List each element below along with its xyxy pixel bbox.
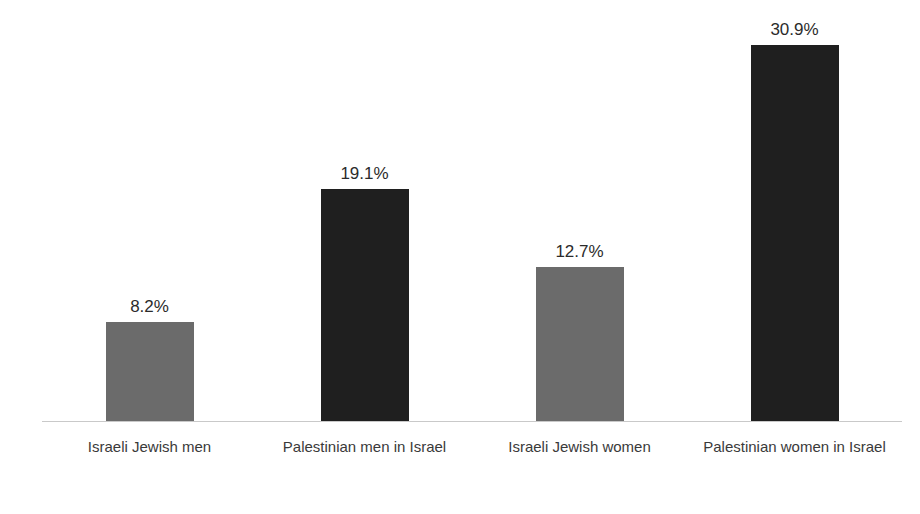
category-label-3: Palestinian women in Israel xyxy=(697,436,893,458)
bar-2: 12.7% xyxy=(536,0,624,422)
category-axis-labels: Israeli Jewish men Palestinian men in Is… xyxy=(42,436,902,506)
category-label-1: Palestinian men in Israel xyxy=(267,436,463,458)
bar-chart: Depression scores 8.2% 19.1% 12.7% 30.9%… xyxy=(0,0,920,514)
bar-3: 30.9% xyxy=(751,0,839,422)
bar-value-0: 8.2% xyxy=(78,297,222,317)
bar-rect-1 xyxy=(321,189,409,422)
category-label-0: Israeli Jewish men xyxy=(52,436,248,458)
bar-value-2: 12.7% xyxy=(508,242,652,262)
bar-0: 8.2% xyxy=(106,0,194,422)
bar-rect-3 xyxy=(751,45,839,422)
bar-1: 19.1% xyxy=(321,0,409,422)
plot-area: 8.2% 19.1% 12.7% 30.9% xyxy=(42,0,902,422)
category-label-2: Israeli Jewish women xyxy=(482,436,678,458)
x-axis-line xyxy=(42,421,902,422)
bar-value-1: 19.1% xyxy=(293,164,437,184)
bar-rect-2 xyxy=(536,267,624,422)
bar-rect-0 xyxy=(106,322,194,422)
bar-value-3: 30.9% xyxy=(723,20,867,40)
